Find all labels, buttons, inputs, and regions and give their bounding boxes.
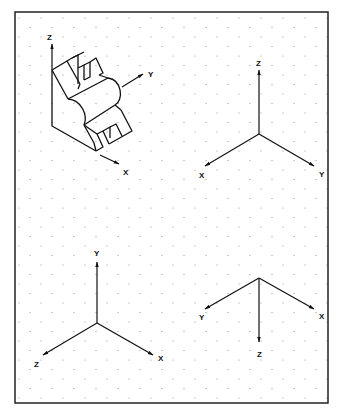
br-x-label: X	[319, 312, 325, 321]
object-x-label: X	[123, 168, 129, 177]
tr-y-label: Y	[319, 170, 325, 179]
bl-x-label: X	[158, 354, 164, 363]
object-y-label: Y	[148, 70, 154, 79]
bl-y-label: Y	[94, 249, 100, 258]
isometric-axes-figure: Z Y X Z X Y Y Z X Y X Z	[0, 0, 342, 420]
br-z-label: Z	[257, 350, 262, 359]
tr-z-label: Z	[256, 59, 261, 68]
tr-x-label: X	[199, 171, 205, 180]
br-y-label: Y	[199, 313, 205, 322]
object-z-label: Z	[47, 33, 52, 42]
bl-z-label: Z	[34, 360, 39, 369]
